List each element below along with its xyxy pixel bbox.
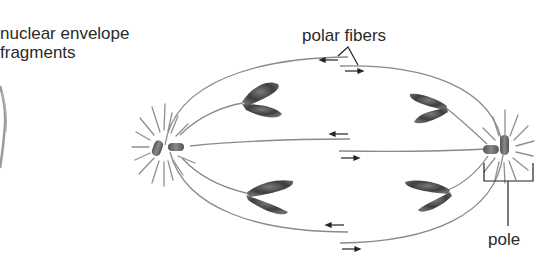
arrow-left-bottom-icon <box>326 223 344 227</box>
spindle-fibers <box>165 57 503 243</box>
nuclear-envelope-label: nuclear envelope fragments <box>0 24 129 62</box>
left-pole-aster <box>132 104 195 186</box>
nuclear-envelope-fragment <box>0 86 7 168</box>
chromosome-upper-left <box>242 82 282 117</box>
chromosome-lower-left <box>246 180 293 214</box>
pole-bracket <box>484 163 533 226</box>
arrow-right-bottom-icon <box>342 247 360 251</box>
left-pole-centrioles <box>151 139 184 157</box>
arrow-right-middle-icon <box>341 156 359 160</box>
nuclear-envelope-label-line1: nuclear envelope <box>0 24 129 43</box>
polar-fibers-label: polar fibers <box>302 26 386 45</box>
arrow-right-top-icon <box>345 69 363 73</box>
polar-fiber-middle-right <box>339 149 487 151</box>
chromosome-upper-right <box>410 94 448 124</box>
arrow-left-top-icon <box>320 58 338 62</box>
sliding-arrows <box>320 58 363 251</box>
polar-fiber-middle-left <box>190 139 350 146</box>
nuclear-envelope-label-line2: fragments <box>0 43 129 62</box>
chromosome-lower-right <box>405 181 452 212</box>
right-pole-centrioles <box>483 135 509 155</box>
polar-fibers-pointer <box>338 47 358 65</box>
arrow-left-middle-icon <box>330 132 348 136</box>
pole-label: pole <box>488 230 520 249</box>
